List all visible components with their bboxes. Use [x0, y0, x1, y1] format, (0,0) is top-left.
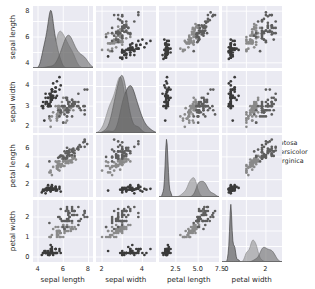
points-setosa	[227, 184, 239, 195]
y-tick-petal-length-2: 2	[21, 181, 30, 188]
subplot-petal-length-vs-sepal-length	[33, 135, 94, 197]
points-versicolor	[245, 155, 263, 177]
points-setosa	[227, 38, 239, 60]
points-versicolor	[179, 219, 200, 238]
y-tick-sepal-width-3: 3	[21, 102, 30, 109]
x-tick-petal-length-2.5: 2.5	[170, 266, 181, 273]
y-tick-sepal-width-4: 4	[21, 82, 30, 89]
subplot-sepal-width-vs-sepal-width	[96, 71, 157, 133]
x-axis-label-sepal-width: sepal width	[105, 276, 146, 283]
y-tick-petal-width-0: 0	[21, 253, 30, 260]
subplot-petal-length-vs-petal-width	[222, 135, 283, 197]
y-tick-sepal-width-2: 2	[21, 123, 30, 130]
y-axis-label-petal-length: petal length	[9, 144, 16, 187]
points-setosa	[40, 243, 62, 256]
y-axis-label-sepal-width: sepal width	[9, 81, 16, 122]
points-virginica	[104, 138, 139, 163]
points-versicolor	[100, 219, 131, 238]
y-tick-petal-length-6: 6	[21, 144, 30, 151]
y-tick-sepal-length-8: 8	[21, 8, 30, 15]
y-tick-petal-length-4: 4	[21, 163, 30, 170]
subplot-petal-width-vs-sepal-width	[96, 200, 157, 262]
x-tick-sepal-width-2: 2	[99, 266, 103, 273]
x-tick-sepal-length-6: 6	[61, 266, 65, 273]
points-setosa	[161, 75, 172, 121]
subplot-petal-width-vs-sepal-length	[33, 200, 94, 262]
points-versicolor	[245, 96, 263, 128]
y-tick-sepal-length-6: 6	[21, 34, 30, 41]
points-virginica	[48, 205, 89, 230]
y-tick-sepal-length-4: 4	[21, 60, 30, 67]
subplot-sepal-length-vs-petal-width	[222, 6, 283, 68]
y-tick-petal-width-1: 1	[21, 233, 30, 240]
subplot-sepal-width-vs-petal-length	[159, 71, 220, 133]
points-virginica	[192, 88, 216, 124]
x-axis-label-petal-width: petal width	[232, 276, 272, 283]
subplot-sepal-length-vs-petal-length	[159, 6, 220, 68]
points-virginica	[48, 138, 89, 163]
subplot-sepal-length-vs-sepal-length	[33, 6, 94, 68]
points-setosa	[161, 243, 172, 256]
subplot-petal-width-vs-petal-length	[159, 200, 220, 262]
x-axis-label-petal-length: petal length	[167, 276, 210, 283]
subplot-petal-length-vs-sepal-width	[96, 135, 157, 197]
x-tick-petal-width-0: 0	[224, 266, 228, 273]
subplot-petal-length-vs-petal-length	[159, 135, 220, 197]
x-tick-petal-width-2: 2	[263, 266, 267, 273]
pairplot-figure: setosaversicolorvirginica 468sepal lengt…	[0, 0, 315, 289]
points-versicolor	[48, 219, 77, 238]
subplot-sepal-width-vs-sepal-length	[33, 71, 94, 133]
points-setosa	[106, 243, 151, 256]
points-versicolor	[245, 23, 263, 53]
x-tick-sepal-length-4: 4	[35, 266, 39, 273]
subplot-petal-width-vs-petal-width	[222, 200, 283, 262]
subplot-sepal-width-vs-petal-width	[222, 71, 283, 133]
y-tick-petal-width-2: 2	[21, 213, 30, 220]
x-tick-petal-length-5.0: 5.0	[192, 266, 203, 273]
points-virginica	[192, 11, 216, 52]
subplot-sepal-length-vs-sepal-width	[96, 6, 157, 68]
x-axis-label-sepal-length: sepal length	[41, 276, 85, 283]
points-setosa	[106, 184, 151, 195]
y-axis-label-petal-width: petal width	[9, 210, 16, 250]
points-setosa	[161, 38, 172, 60]
points-virginica	[252, 11, 276, 52]
x-tick-sepal-length-8: 8	[86, 266, 90, 273]
y-axis-label-sepal-length: sepal length	[9, 15, 16, 59]
x-tick-sepal-width-4: 4	[140, 266, 144, 273]
points-setosa	[40, 184, 62, 195]
points-setosa	[227, 75, 239, 121]
